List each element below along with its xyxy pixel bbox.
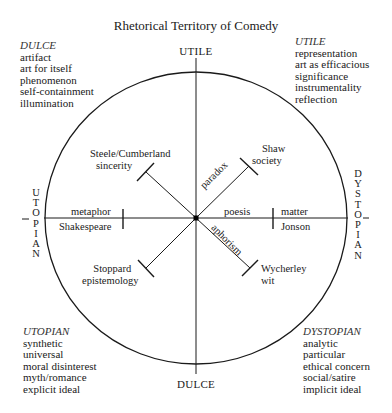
letter: N xyxy=(352,251,364,261)
corner-heading: UTOPIAN xyxy=(23,326,97,338)
letter: N xyxy=(30,249,42,259)
corner-item: particular xyxy=(303,349,370,361)
corner-item: instrumentality xyxy=(295,82,369,94)
arm-upper-right-label: Shaw society xyxy=(252,143,285,167)
corner-item: myth/romance xyxy=(23,372,97,384)
author-shakespeare: Shakespeare xyxy=(59,221,111,233)
corner-item: explicit ideal xyxy=(23,384,97,396)
arm-lower-right-label: Wycherley wit xyxy=(261,263,306,287)
author-steele-cumberland: Steele/Cumberland xyxy=(90,148,170,160)
corner-heading: UTILE xyxy=(295,36,369,48)
corner-item: social/satire xyxy=(303,372,370,384)
corner-item: art as efficacious xyxy=(295,59,369,71)
center-point xyxy=(194,216,199,221)
arm-lower-left-label: Stoppard epistemology xyxy=(82,263,139,287)
corner-item: illumination xyxy=(20,98,94,110)
quality-sincerity: sincerity xyxy=(90,160,170,172)
corner-item: implicit ideal xyxy=(303,384,370,396)
axis-label-top: UTILE xyxy=(166,45,226,57)
quality-wit: wit xyxy=(261,275,306,287)
axis-label-right: D Y S T O P I A N xyxy=(352,169,364,261)
corner-heading: DULCE xyxy=(20,40,94,52)
arm-upper-left xyxy=(146,172,196,218)
author-jonson: Jonson xyxy=(281,221,310,233)
corner-item: reflection xyxy=(295,94,369,106)
author-stoppard: Stoppard xyxy=(82,263,139,275)
mode-metaphor: metaphor xyxy=(71,206,111,218)
corner-bottom-right: DYSTOPIAN analytic particular ethical co… xyxy=(303,326,370,395)
mode-poesis: poesis xyxy=(224,206,250,218)
axis-label-bottom: DULCE xyxy=(166,378,226,390)
corner-item: universal xyxy=(23,349,97,361)
author-shaw: Shaw xyxy=(252,143,285,155)
corner-bottom-left: UTOPIAN synthetic universal moral disint… xyxy=(23,326,97,395)
diagram-title: Rhetorical Territory of Comedy xyxy=(0,18,392,34)
corner-top-left: DULCE artifact art for itself phenomenon… xyxy=(20,40,94,109)
corner-top-right: UTILE representation art as efficacious … xyxy=(295,36,369,105)
author-wycherley: Wycherley xyxy=(261,263,306,275)
arm-upper-left-label: Steele/Cumberland sincerity xyxy=(90,148,170,172)
corner-heading: DYSTOPIAN xyxy=(303,326,370,338)
corner-item: art for itself xyxy=(20,63,94,75)
quality-epistemology: epistemology xyxy=(82,275,139,287)
arm-lower-left xyxy=(146,218,196,268)
axis-label-left: U T O P I A N xyxy=(30,188,42,259)
quality-society: society xyxy=(252,155,285,167)
corner-item: self-containment xyxy=(20,86,94,98)
quality-matter: matter xyxy=(281,206,308,218)
